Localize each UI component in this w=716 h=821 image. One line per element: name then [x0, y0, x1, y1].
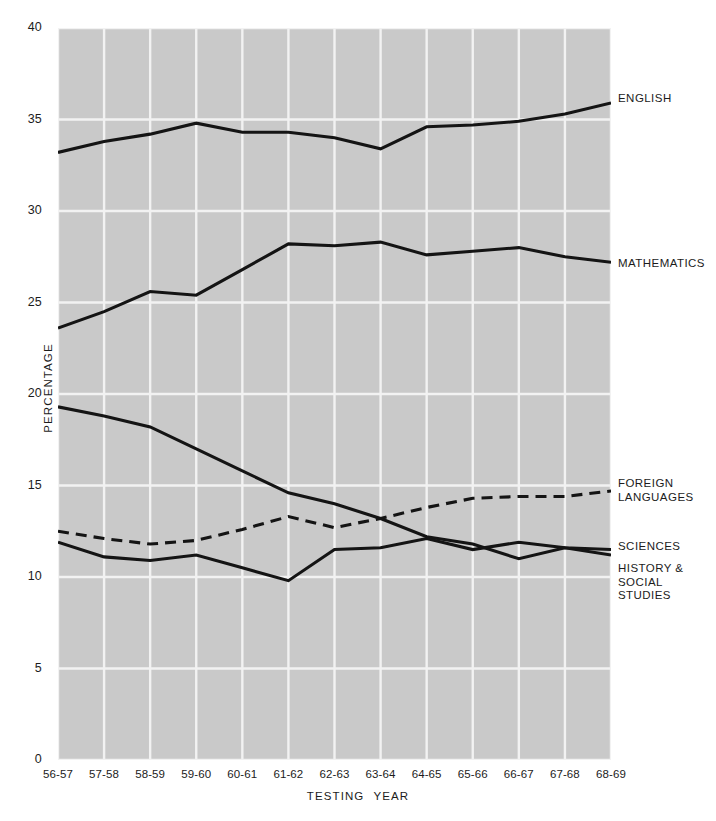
- series-label-mathematics: MATHEMATICS: [618, 257, 705, 271]
- figure-title: [0, 1, 716, 11]
- y-tick-label: 10: [8, 569, 42, 583]
- series-lines: [58, 28, 611, 760]
- series-label-english: ENGLISH: [618, 92, 672, 106]
- y-tick-label: 15: [8, 478, 42, 492]
- y-tick-label: 0: [8, 752, 42, 766]
- series-line-0: [58, 103, 611, 152]
- x-axis-label-part1: TESTING: [307, 790, 365, 802]
- x-axis-label: TESTINGYEAR: [0, 790, 716, 802]
- x-axis-label-part2: YEAR: [373, 790, 409, 802]
- series-line-2: [58, 407, 611, 559]
- y-tick-label: 35: [8, 112, 42, 126]
- y-tick-label: 30: [8, 203, 42, 217]
- plot-area: [58, 28, 611, 760]
- y-tick-label: 5: [8, 661, 42, 675]
- y-tick-label: 20: [8, 386, 42, 400]
- series-line-3: [58, 491, 611, 544]
- series-label-sciences: SCIENCES: [618, 540, 680, 554]
- series-label-foreign-languages: FOREIGN LANGUAGES: [618, 477, 694, 504]
- y-tick-label: 25: [8, 295, 42, 309]
- series-label-history-social-studies: HISTORY & SOCIAL STUDIES: [618, 562, 683, 603]
- series-line-4: [58, 539, 611, 581]
- x-tick-label: 68-69: [581, 768, 641, 780]
- y-tick-label: 40: [8, 20, 42, 34]
- y-axis-label: PERCENTAGE: [42, 318, 54, 458]
- series-line-1: [58, 242, 611, 328]
- line-chart-figure: 0510152025303540 56-5757-5858-5959-6060-…: [0, 0, 716, 821]
